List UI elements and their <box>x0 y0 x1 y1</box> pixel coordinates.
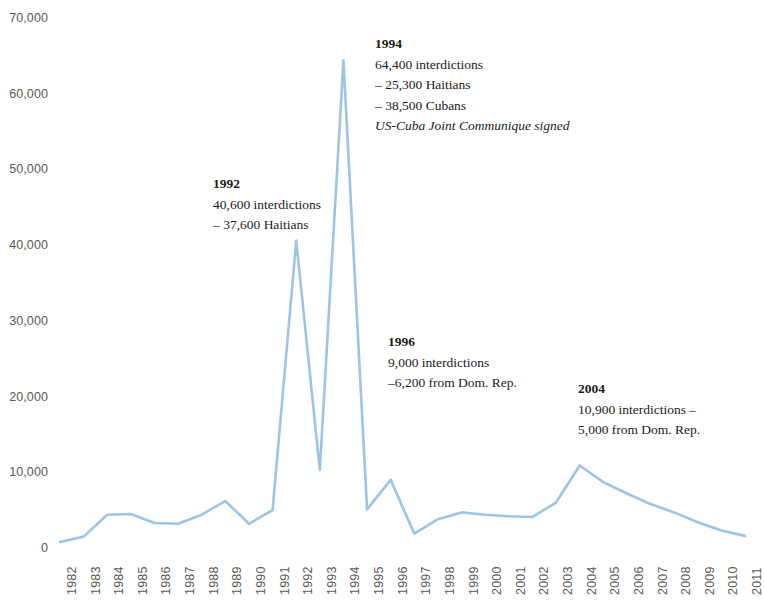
annotation-line: – 25,300 Haitians <box>375 75 570 96</box>
annotation-year: 2004 <box>578 379 700 400</box>
annotation-line: 64,400 interdictions <box>375 55 570 76</box>
annotation-year: 1994 <box>375 34 570 55</box>
annotation-2004: 2004 10,900 interdictions – 5,000 from D… <box>578 379 700 441</box>
annotation-year: 1992 <box>213 174 321 195</box>
annotation-1992: 1992 40,600 interdictions – 37,600 Haiti… <box>213 174 321 236</box>
annotation-line: 9,000 interdictions <box>388 353 517 374</box>
annotation-1994: 1994 64,400 interdictions – 25,300 Haiti… <box>375 34 570 137</box>
annotation-line: – 38,500 Cubans <box>375 96 570 117</box>
annotation-line: 5,000 from Dom. Rep. <box>578 420 700 441</box>
annotation-year: 1996 <box>388 332 517 353</box>
annotation-line: 10,900 interdictions – <box>578 400 700 421</box>
annotation-note: US-Cuba Joint Communique signed <box>375 116 570 137</box>
annotation-line: 40,600 interdictions <box>213 195 321 216</box>
annotation-line: –6,200 from Dom. Rep. <box>388 373 517 394</box>
annotation-1996: 1996 9,000 interdictions –6,200 from Dom… <box>388 332 517 394</box>
annotation-line: – 37,600 Haitians <box>213 215 321 236</box>
